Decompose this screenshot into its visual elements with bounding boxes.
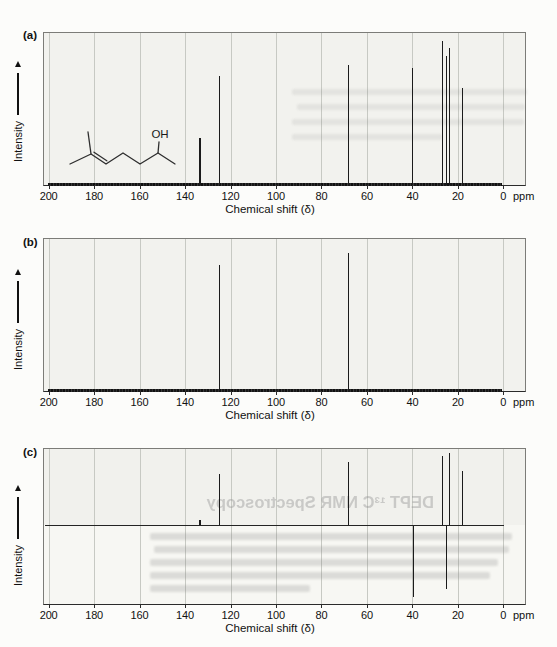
gridline — [185, 449, 186, 604]
x-tick-label: 60 — [361, 396, 373, 408]
gridline — [276, 239, 277, 391]
intensity-label: Intensity — [12, 545, 24, 586]
x-tick-label: 80 — [315, 190, 327, 202]
intensity-label: Intensity — [12, 121, 24, 162]
x-tick-label: 40 — [406, 396, 418, 408]
panel-label-b: (b) — [23, 236, 38, 248]
x-tick — [276, 185, 277, 189]
x-tick-label: 160 — [131, 190, 149, 202]
gridline — [140, 449, 141, 604]
page-showthrough-line — [150, 533, 512, 540]
x-tick — [94, 185, 95, 189]
x-tick-label: 0 — [500, 609, 506, 621]
x-tick — [458, 185, 459, 189]
intensity-label: Intensity — [12, 329, 24, 370]
page-showthrough-line — [154, 546, 509, 553]
x-tick — [185, 185, 186, 189]
page-showthrough-line — [150, 572, 490, 579]
x-tick-label: 180 — [85, 396, 103, 408]
x-tick — [458, 604, 459, 608]
axis-arrow-line — [17, 497, 18, 539]
gridline — [231, 449, 232, 604]
gridline — [94, 239, 95, 391]
page-showthrough-line — [292, 134, 442, 140]
x-tick-label: 200 — [40, 396, 58, 408]
x-tick — [412, 391, 413, 395]
nmr-peak — [462, 88, 463, 185]
methyl-bond — [88, 132, 91, 154]
nmr-peak — [348, 462, 349, 525]
y-axis-label-c: Intensity — [11, 485, 25, 586]
x-tick-label: 120 — [222, 190, 240, 202]
gridline — [458, 449, 459, 604]
x-tick-label: 200 — [40, 609, 58, 621]
gridline — [185, 239, 186, 391]
x-tick-label: 0 — [500, 190, 506, 202]
c-o-bond — [158, 142, 159, 153]
x-tick — [94, 391, 95, 395]
gridline — [321, 239, 322, 391]
gridline — [458, 239, 459, 391]
panel-label-a: (a) — [23, 29, 37, 41]
x-tick — [49, 604, 50, 608]
x-tick-label: 140 — [176, 396, 194, 408]
x-axis-title-a: Chemical shift (δ) — [225, 203, 314, 215]
x-tick — [503, 604, 504, 608]
x-tick — [458, 391, 459, 395]
x-tick-label: 60 — [361, 609, 373, 621]
x-tick-label: 180 — [85, 190, 103, 202]
x-tick — [367, 185, 368, 189]
x-tick-label: 200 — [40, 190, 58, 202]
x-tick-label: 40 — [406, 190, 418, 202]
gridline — [49, 449, 50, 604]
x-tick — [367, 391, 368, 395]
x-tick — [231, 391, 232, 395]
x-tick — [276, 391, 277, 395]
page-showthrough-line — [292, 89, 527, 95]
nmr-peak — [449, 453, 450, 525]
arrow-up-icon — [15, 269, 21, 275]
x-axis-unit-a: ppm — [513, 190, 534, 202]
nmr-peak — [413, 526, 414, 597]
y-axis-label-a: Intensity — [11, 61, 25, 162]
y-axis-label-b: Intensity — [11, 269, 25, 370]
x-tick-label: 80 — [315, 609, 327, 621]
nmr-peak — [219, 76, 220, 185]
nmr-spectra-figure: (a) (b) (c) Intensity Intensity Intensit… — [0, 0, 557, 647]
baseline-noise — [48, 183, 502, 186]
nmr-peak — [348, 65, 349, 185]
nmr-peak — [446, 56, 447, 185]
x-tick-label: 100 — [267, 609, 285, 621]
gridline — [49, 33, 50, 185]
gridline — [94, 449, 95, 604]
spectrum-plot-a: OH Chemical shift (δ) ppm 20018016014012… — [43, 32, 526, 186]
carbon-skeleton — [70, 153, 175, 164]
x-axis-unit-b: ppm — [513, 396, 534, 408]
x-tick-label: 120 — [222, 609, 240, 621]
x-tick-label: 60 — [361, 190, 373, 202]
page-showthrough-line — [150, 585, 310, 592]
x-tick-label: 0 — [500, 396, 506, 408]
panel-label-c: (c) — [23, 446, 37, 458]
x-tick-label: 160 — [131, 609, 149, 621]
x-tick-label: 100 — [267, 396, 285, 408]
gridline — [49, 239, 50, 391]
nmr-peak — [442, 41, 443, 185]
nmr-peak — [449, 48, 450, 185]
page-showthrough-line — [297, 104, 525, 110]
x-tick — [503, 185, 504, 189]
x-tick — [412, 185, 413, 189]
x-tick — [140, 185, 141, 189]
x-tick — [231, 185, 232, 189]
x-tick-label: 80 — [315, 396, 327, 408]
nmr-peak — [442, 456, 443, 525]
x-tick — [185, 604, 186, 608]
gridline — [231, 239, 232, 391]
nmr-peak — [199, 138, 200, 185]
axis-arrow-line — [17, 281, 18, 323]
arrow-up-icon — [15, 485, 21, 491]
axis-arrow-line — [17, 73, 18, 115]
x-tick — [321, 391, 322, 395]
x-tick — [503, 391, 504, 395]
x-tick — [94, 604, 95, 608]
